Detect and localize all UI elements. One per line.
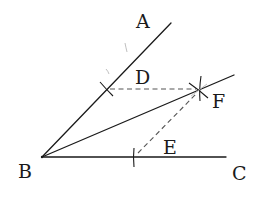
label-d: D: [135, 66, 150, 88]
label-e: E: [163, 136, 177, 158]
faint-arc-fragment-2: [106, 69, 109, 74]
arc-mark-e: [134, 148, 135, 167]
label-a: A: [135, 10, 150, 32]
label-f: F: [212, 90, 225, 112]
label-b: B: [18, 160, 32, 182]
angle-bisector-diagram: A B C D E F: [0, 0, 261, 201]
faint-arc-fragment-1: [125, 43, 127, 52]
point-b-dot: [41, 156, 43, 158]
label-c: C: [232, 162, 247, 184]
